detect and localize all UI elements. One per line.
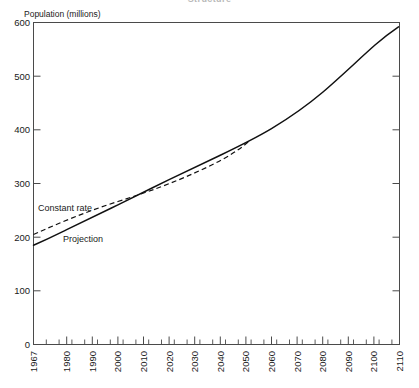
x-tick-label-2040: 2040 <box>215 351 226 372</box>
x-tick-label-2100: 2100 <box>368 351 379 372</box>
y-axis-ticks-left <box>34 23 41 345</box>
y-tick-label-600: 600 <box>14 17 30 28</box>
chart-svg: Population (millions) 600 500 400 300 <box>0 0 419 388</box>
x-tick-label-2000: 2000 <box>112 351 123 372</box>
y-axis-tick-labels: 600 500 400 300 200 100 0 <box>14 17 30 350</box>
x-tick-label-2060: 2060 <box>266 351 277 372</box>
x-tick-label-1980: 1980 <box>61 351 72 372</box>
y-axis-title: Population (millions) <box>24 9 101 19</box>
annotation-constant-rate: Constant rate <box>38 203 92 213</box>
x-tick-label-2090: 2090 <box>343 351 354 372</box>
y-tick-label-400: 400 <box>14 124 30 135</box>
plot-frame <box>34 23 400 345</box>
x-axis-minor-ticks <box>46 340 392 345</box>
x-tick-label-1990: 1990 <box>87 351 98 372</box>
x-axis-tick-labels: 1967 1980 1990 2000 2010 2020 2030 2040 … <box>28 351 405 372</box>
x-tick-label-2030: 2030 <box>189 351 200 372</box>
y-tick-label-500: 500 <box>14 71 30 82</box>
series-constant-rate-line <box>34 141 250 235</box>
x-tick-label-2070: 2070 <box>292 351 303 372</box>
y-tick-label-300: 300 <box>14 178 30 189</box>
y-tick-label-0: 0 <box>25 339 30 350</box>
x-tick-label-2010: 2010 <box>138 351 149 372</box>
y-axis-ticks-right <box>393 76 400 291</box>
annotation-projection: Projection <box>63 234 103 244</box>
population-projection-chart: Population (millions) 600 500 400 300 <box>0 0 419 388</box>
x-tick-label-2020: 2020 <box>164 351 175 372</box>
x-tick-label-2110: 2110 <box>394 351 405 371</box>
x-tick-label-1967: 1967 <box>28 351 39 372</box>
x-tick-label-2050: 2050 <box>240 351 251 372</box>
x-axis-major-ticks <box>34 337 400 345</box>
x-tick-label-2080: 2080 <box>317 351 328 372</box>
y-tick-label-100: 100 <box>14 285 30 296</box>
y-tick-label-200: 200 <box>14 232 30 243</box>
